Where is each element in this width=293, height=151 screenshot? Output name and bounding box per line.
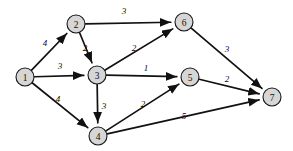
graph-edge-2-6	[85, 22, 170, 24]
graph-edge-3-6	[105, 29, 173, 70]
graph-node-6[interactable]: 6	[175, 13, 193, 31]
graph-canvas: 434322132523 1234567	[0, 0, 293, 151]
edge-weight-5-7: 2	[225, 74, 230, 84]
node-label-5: 5	[188, 73, 193, 83]
edge-weight-1-3: 3	[57, 61, 63, 71]
node-label-3: 3	[95, 71, 100, 81]
edge-weight-4-5: 2	[141, 99, 146, 109]
edge-weight-2-3: 2	[83, 43, 88, 53]
edge-weight-3-6: 2	[132, 43, 137, 53]
graph-edge-3-4	[97, 84, 98, 122]
graph-figure: 434322132523 1234567	[0, 0, 293, 151]
edge-weight-1-2: 4	[43, 38, 48, 48]
graph-node-7[interactable]: 7	[263, 88, 281, 106]
edge-weight-2-6: 3	[121, 6, 127, 16]
edge-weight-4-7: 5	[182, 111, 187, 121]
graph-edge-3-5	[106, 75, 176, 77]
edge-weight-3-5: 1	[144, 63, 149, 73]
edge-weight-1-4: 4	[56, 94, 61, 104]
node-label-1: 1	[23, 73, 28, 83]
graph-edge-1-3	[34, 75, 83, 76]
node-label-2: 2	[74, 20, 79, 30]
graph-node-3[interactable]: 3	[88, 66, 106, 84]
graph-node-4[interactable]: 4	[89, 127, 107, 145]
edge-weight-6-7: 3	[224, 44, 230, 54]
node-label-4: 4	[96, 132, 101, 142]
graph-node-1[interactable]: 1	[16, 68, 34, 86]
graph-node-5[interactable]: 5	[181, 68, 199, 86]
edge-weight-3-4: 3	[101, 101, 107, 111]
node-label-6: 6	[182, 18, 187, 28]
graph-node-2[interactable]: 2	[67, 15, 85, 33]
node-label-7: 7	[270, 93, 275, 103]
graph-edge-1-4	[32, 83, 87, 128]
